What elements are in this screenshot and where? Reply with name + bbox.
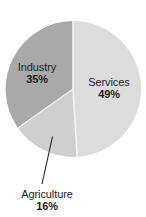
pie-label-agriculture-value: 16%: [2, 200, 92, 212]
pie-label-services: Services 49%: [78, 76, 140, 101]
pie-label-industry-name: Industry: [6, 61, 68, 73]
pie-label-agriculture-name: Agriculture: [2, 188, 92, 200]
pie-chart-figure: Industry 35% Services 49% Agriculture 16…: [0, 0, 146, 217]
pie-label-agriculture: Agriculture 16%: [2, 188, 92, 213]
pie-chart-canvas: [0, 0, 146, 217]
pie-label-services-value: 49%: [78, 88, 140, 100]
pie-label-industry: Industry 35%: [6, 61, 68, 86]
pie-label-industry-value: 35%: [6, 73, 68, 85]
pie-label-services-name: Services: [78, 76, 140, 88]
